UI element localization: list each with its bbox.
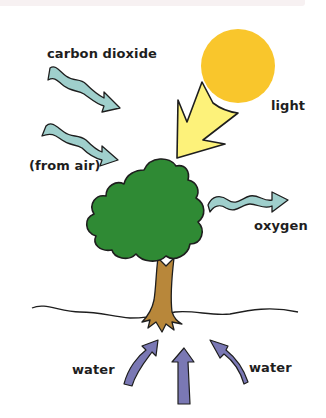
label-light: light (271, 98, 305, 113)
arrow-up-icon (210, 340, 248, 384)
tree-trunk (142, 258, 182, 332)
wavy-arrow-icon (48, 67, 120, 112)
arrow-up-icon (172, 348, 194, 404)
label-water-left: water (72, 362, 115, 377)
label-from-air: (from air) (29, 158, 101, 173)
wavy-arrow-icon (208, 192, 288, 212)
arrow-up-icon (124, 340, 158, 386)
label-oxygen: oxygen (254, 218, 308, 233)
photosynthesis-diagram (0, 0, 326, 418)
tree-icon (87, 159, 204, 261)
label-water-right: water (249, 360, 292, 375)
sun-icon (201, 29, 275, 103)
label-carbon-dioxide: carbon dioxide (47, 46, 157, 61)
